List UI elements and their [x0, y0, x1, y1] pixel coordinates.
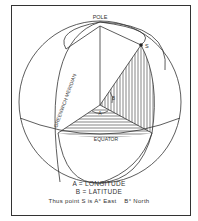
legend-longitude: A = LONGITUDE	[0, 180, 198, 187]
equator-line	[20, 118, 180, 134]
legend-example: Thus point S is A° East B° North	[0, 198, 198, 204]
legend-latitude: B = LATITUDE	[0, 188, 198, 195]
equator-label: EQUATOR	[94, 136, 119, 142]
point-s-label: S	[145, 43, 149, 49]
pole-label: POLE	[93, 14, 108, 20]
legend-example-north: B° North	[124, 198, 149, 204]
angle-a-label: A	[98, 111, 101, 116]
point-s-marker	[139, 43, 143, 47]
legend-example-east: Thus point S is A° East	[48, 198, 116, 204]
angle-b-label: B	[112, 96, 115, 101]
meridian-label: GREENWICH MERIDIAN	[52, 72, 77, 128]
